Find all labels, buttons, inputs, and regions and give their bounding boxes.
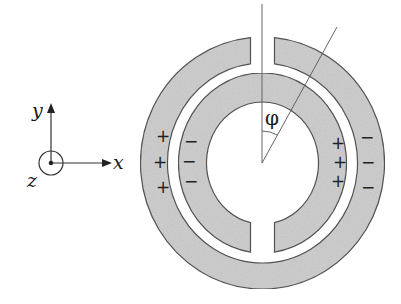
split-ring-diagram: y x z φ + + + − − − + + + − − −	[0, 0, 401, 304]
y-axis-label: y	[31, 99, 43, 121]
charge-sign: +	[153, 152, 167, 172]
charge-sign: −	[184, 171, 198, 191]
x-axis-label: x	[113, 151, 124, 173]
charge-sign: +	[333, 152, 347, 172]
y-arrowhead-icon	[47, 103, 55, 113]
charge-sign: +	[156, 177, 170, 197]
angle-label-phi: φ	[265, 106, 279, 130]
charge-sign: −	[184, 131, 198, 151]
charge-sign: −	[361, 152, 375, 172]
charge-sign: +	[331, 171, 345, 191]
outer-ring-right-charges: − − −	[360, 127, 375, 197]
charge-sign: −	[361, 177, 375, 197]
z-axis-dot-icon	[49, 161, 54, 166]
angle-arc	[262, 131, 277, 135]
coordinate-axes: y x z	[26, 99, 124, 191]
inner-ring-left-charges: − − −	[182, 131, 198, 191]
x-arrowhead-icon	[102, 159, 112, 167]
charge-sign: +	[156, 126, 170, 146]
rings	[140, 38, 384, 289]
charge-sign: +	[331, 133, 345, 153]
z-axis-label: z	[26, 169, 38, 191]
charge-sign: −	[182, 151, 196, 171]
charge-sign: −	[360, 127, 374, 147]
inner-ring-right-charges: + + +	[331, 133, 347, 191]
